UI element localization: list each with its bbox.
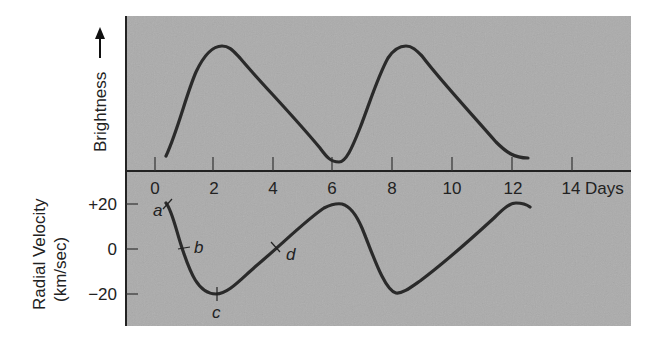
y-tick-plus20: +20 (88, 195, 117, 214)
up-arrow-icon (95, 27, 105, 58)
x-tick-10: 10 (443, 179, 462, 198)
marker-d: d (286, 245, 296, 264)
cepheid-chart: 0 2 4 6 8 10 12 14 Days Brightness +20 0… (0, 0, 658, 344)
x-tick-0: 0 (150, 179, 159, 198)
marker-c: c (212, 303, 221, 322)
marker-a: a (153, 201, 162, 220)
x-tick-6: 6 (327, 179, 336, 198)
x-tick-14: 14 (562, 179, 581, 198)
x-tick-4: 4 (268, 179, 277, 198)
y-tick-0: 0 (108, 240, 117, 259)
x-tick-2: 2 (209, 179, 218, 198)
marker-b: b (194, 238, 203, 257)
x-tick-12: 12 (504, 179, 523, 198)
brightness-label: Brightness (91, 72, 110, 152)
y-tick-minus20: −20 (88, 285, 117, 304)
units-label: (km/sec) (51, 237, 70, 302)
x-tick-8: 8 (387, 179, 396, 198)
radial-velocity-label: Radial Velocity (30, 198, 49, 310)
x-axis-label: Days (585, 179, 624, 198)
